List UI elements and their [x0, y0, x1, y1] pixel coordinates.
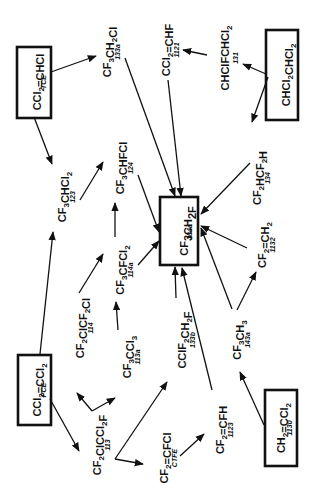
arrow-134-to-134a: [201, 163, 250, 214]
arrow-143a-to-134a: [201, 228, 232, 309]
code-target-134a: 134a: [186, 224, 193, 240]
compound-130: CHCl2CHCl2: [280, 43, 298, 106]
code-1130: 1130: [286, 420, 293, 435]
arrow-123-to-124: [80, 162, 103, 200]
arrow-TCE-to-123: [34, 117, 52, 164]
starting-material-boxes: [17, 30, 298, 466]
reaction-arrows: [34, 50, 268, 464]
code-1132: 1132: [269, 237, 276, 252]
arrow-113-to-CTFE: [115, 459, 143, 464]
arrow-131-to-1121: [183, 50, 207, 55]
arrow-133a-to-134a: [125, 58, 175, 196]
arrow-1121-to-134a: [168, 80, 181, 196]
arrow-113-to-133b: [115, 382, 167, 459]
code-114: 114: [87, 322, 94, 333]
arrow-143a-to-1132: [237, 272, 256, 310]
arrow-130-to-131: [243, 64, 266, 74]
arrow-CTFE-to-1123: [180, 434, 204, 456]
arrow-113-to-114: [77, 393, 92, 411]
arrow-113a-to-114a: [116, 302, 118, 330]
code-1123: 1123: [227, 422, 234, 437]
code-131: 131: [232, 52, 239, 64]
arrow-114a-to-134a: [138, 241, 159, 265]
code-1121: 1121: [173, 42, 180, 57]
arrow-TCE-to-133a: [51, 56, 96, 72]
arrow-124-to-134a: [138, 175, 159, 232]
code-133b: 133b: [189, 331, 196, 348]
code-CTFE: CTFE: [171, 449, 178, 468]
code-TCE: TCE: [40, 75, 47, 89]
code-134: 134: [264, 172, 271, 184]
code-133a: 133a: [114, 44, 121, 60]
code-124: 124: [127, 162, 134, 174]
arrow-133b-to-134a: [175, 267, 176, 298]
arrow-114-to-114a: [79, 254, 103, 293]
code-114a: 114a: [127, 262, 134, 277]
reaction-pathway-diagram: CCl2=CHClTCECF3CH2Cl133aCCl2=CHF1121CHCl…: [0, 0, 319, 501]
diagram-canvas: CCl2=CHClTCECF3CH2Cl133aCCl2=CHF1121CHCl…: [0, 0, 319, 501]
arrow-1130-to-143a: [240, 372, 264, 425]
code-113a: 113a: [134, 349, 141, 364]
arrow-PCE-to-113: [50, 399, 79, 451]
arrow-PCE-to-123: [40, 232, 53, 354]
code-PCE: PCE: [40, 382, 47, 397]
code-123: 123: [69, 191, 76, 203]
code-113: 113: [104, 439, 111, 450]
arrow-113-to-113a: [92, 398, 115, 411]
code-143a: 143a: [244, 332, 251, 348]
compound-labels: CCl2=CHClTCECF3CH2Cl133aCCl2=CHF1121CHCl…: [31, 24, 298, 484]
